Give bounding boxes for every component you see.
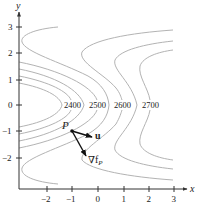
y-tick-neg2: −2 xyxy=(2,153,12,163)
contour-level-labels: 2400 2500 2600 2700 xyxy=(64,100,159,110)
x-tick-neg2: −2 xyxy=(41,194,51,204)
x-tick-2: 2 xyxy=(147,194,152,204)
contour-right-1-bottom xyxy=(82,110,173,180)
y-tick-1: 1 xyxy=(8,75,13,85)
point-p-label: P xyxy=(61,119,69,131)
y-axis-label: y xyxy=(15,0,21,11)
point-p-dot xyxy=(70,129,74,133)
y-tick-3: 3 xyxy=(8,22,13,32)
contour-label-2700: 2700 xyxy=(142,100,159,110)
x-tick-3: 3 xyxy=(172,194,177,204)
contour-left-1 xyxy=(19,83,62,127)
y-tick-neg1: −1 xyxy=(2,126,12,136)
gradient-subscript: P xyxy=(97,159,103,167)
x-tick-1: 1 xyxy=(122,194,127,204)
contour-label-2600: 2600 xyxy=(114,100,131,110)
contour-label-2500: 2500 xyxy=(89,100,106,110)
gradient-label: ∇fP xyxy=(88,154,103,167)
contour-right-1-top xyxy=(82,30,173,100)
y-tick-2: 2 xyxy=(8,48,13,58)
x-tick-neg1: −1 xyxy=(66,194,76,204)
contour-figure: 2400 2500 2600 2700 y x 3 2 1 0 −1 −2 xyxy=(0,0,198,209)
unit-vector-u-label: u xyxy=(95,130,101,141)
y-tick-0: 0 xyxy=(8,100,13,110)
x-tick-0: 0 xyxy=(96,194,101,204)
x-axis-label: x xyxy=(189,183,195,194)
contour-label-2400: 2400 xyxy=(64,100,81,110)
